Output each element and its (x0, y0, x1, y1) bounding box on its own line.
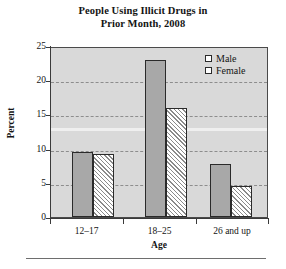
bar-female-18-25 (166, 108, 187, 217)
x-tick-mark-2 (196, 218, 197, 224)
x-axis-title: Age (50, 240, 268, 250)
x-tick-mark-left (50, 218, 51, 224)
bar-male-12-17 (72, 152, 93, 217)
x-axis-line (49, 218, 269, 219)
male-swatch-icon (205, 55, 212, 62)
x-tick-mark-1 (123, 218, 124, 224)
chart-legend: Male Female (202, 51, 264, 78)
y-tick-mark-5 (46, 184, 51, 185)
y-tick-mark-10 (46, 150, 51, 151)
y-tick-label-10: 10 (24, 145, 46, 155)
x-category-label-18-25: 18–25 (123, 226, 196, 237)
y-tick-labels: 25 20 15 10 5 0 (20, 0, 46, 269)
legend-label-female: Female (216, 65, 245, 76)
y-axis-title: Percent (6, 93, 16, 153)
page-bottom-rule (26, 258, 266, 259)
y-tick-label-25: 25 (24, 42, 46, 52)
bar-female-26-and-up (231, 186, 252, 217)
plot-area: Male Female (50, 47, 268, 218)
y-axis-line (50, 46, 51, 219)
x-tick-mark-right (268, 218, 269, 224)
y-tick-mark-15 (46, 115, 51, 116)
y-tick-label-15: 15 (24, 110, 46, 120)
legend-label-male: Male (216, 53, 237, 64)
y-tick-mark-20 (46, 81, 51, 82)
y-tick-mark-25 (46, 47, 51, 48)
female-swatch-icon (205, 67, 212, 74)
y-tick-label-5: 5 (24, 179, 46, 189)
bar-female-12-17 (93, 154, 114, 217)
y-tick-label-0: 0 (24, 213, 46, 223)
y-tick-label-20: 20 (24, 76, 46, 86)
bar-male-26-and-up (210, 164, 231, 217)
bar-male-18-25 (145, 60, 166, 217)
x-category-label-12-17: 12–17 (50, 226, 123, 237)
legend-item-male: Male (205, 52, 262, 64)
legend-item-female: Female (205, 64, 262, 76)
x-category-label-26-and-up: 26 and up (196, 226, 268, 237)
